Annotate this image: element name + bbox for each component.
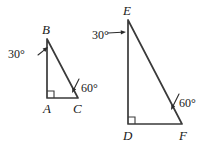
angle-label-c-60: 60° [81, 81, 98, 95]
angle-label-b-30: 30° [8, 47, 25, 61]
vertex-label-f: F [178, 128, 188, 143]
angle-label-f-60: 60° [179, 96, 196, 110]
vertex-label-e: E [122, 3, 131, 18]
angle-annotation-b: 30° [8, 47, 48, 61]
right-angle-marker-d [128, 117, 135, 124]
vertex-label-d: D [122, 128, 133, 143]
vertex-label-b: B [42, 22, 50, 37]
angle-pointer-line-e [108, 32, 122, 33]
triangle-def: E D F 30° 60° [92, 3, 196, 143]
angle-pointer-arrowhead-e [121, 30, 126, 34]
angle-pointer-line-b [38, 50, 44, 55]
angle-annotation-f: 60° [171, 94, 196, 110]
vertex-label-a: A [42, 101, 51, 116]
vertex-label-c: C [73, 101, 82, 116]
angle-pointer-line-c [74, 79, 79, 89]
triangle-def-sides [128, 20, 182, 124]
geometry-canvas: B A C 30° 60° E D F 30° [0, 0, 218, 148]
angle-annotation-e: 30° [92, 28, 126, 42]
angle-label-e-30: 30° [92, 28, 109, 42]
triangle-abc: B A C 30° 60° [8, 22, 98, 116]
right-angle-marker-a [47, 91, 54, 98]
geometry-figure: B A C 30° 60° E D F 30° [0, 0, 218, 148]
